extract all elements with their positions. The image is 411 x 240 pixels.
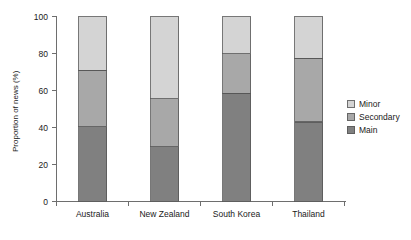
bar-segment-secondary[interactable] <box>79 70 107 126</box>
bar-segment-secondary[interactable] <box>295 58 323 122</box>
legend-swatch-main <box>347 126 355 134</box>
bar-segment-secondary[interactable] <box>223 54 251 94</box>
bar-segment-main[interactable] <box>79 127 107 202</box>
bar-group <box>223 17 251 202</box>
bar-group <box>295 17 323 202</box>
legend-item-minor[interactable]: Minor <box>347 99 380 109</box>
legend-swatch-minor <box>347 100 355 108</box>
y-tick-label: 100 <box>34 12 48 22</box>
x-category-label: Australia <box>76 209 109 219</box>
bar-segment-main[interactable] <box>223 93 251 201</box>
bar-segment-minor[interactable] <box>151 17 179 99</box>
legend-label-main: Main <box>359 125 378 135</box>
bar-segment-main[interactable] <box>295 122 323 202</box>
legend-label-minor: Minor <box>359 99 380 109</box>
y-tick-label: 80 <box>39 49 49 59</box>
legend-swatch-secondary <box>347 113 355 121</box>
y-tick-label: 60 <box>39 86 49 96</box>
bar-segment-main[interactable] <box>151 147 179 202</box>
bar-segment-minor[interactable] <box>223 17 251 54</box>
bar-segment-minor[interactable] <box>79 17 107 71</box>
legend-item-main[interactable]: Main <box>347 125 378 135</box>
x-category-label: New Zealand <box>139 209 189 219</box>
bar-segment-minor[interactable] <box>295 17 323 59</box>
stacked-bar-chart: 0 20 40 60 80 100 Proportion of news (%)… <box>0 0 411 240</box>
y-tick-label: 40 <box>39 123 49 133</box>
chart-svg: 0 20 40 60 80 100 Proportion of news (%)… <box>0 0 411 240</box>
bar-segment-secondary[interactable] <box>151 99 179 147</box>
legend-label-secondary: Secondary <box>359 112 400 122</box>
bar-group <box>151 17 179 202</box>
y-tick-label: 0 <box>43 197 48 207</box>
x-category-label: Thailand <box>292 209 325 219</box>
bar-group <box>79 17 107 202</box>
y-axis-title: Proportion of news (%) <box>11 70 20 152</box>
y-tick-label: 20 <box>39 160 49 170</box>
x-category-label: South Korea <box>213 209 261 219</box>
